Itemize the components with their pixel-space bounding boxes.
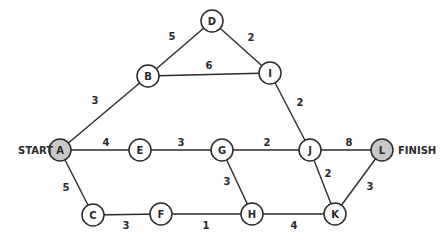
edge-b-i: [148, 73, 270, 76]
node-h: H: [241, 203, 263, 225]
node-label: D: [208, 16, 216, 27]
node-g: G: [211, 139, 233, 161]
edge-weight-i-j: 2: [297, 97, 304, 108]
edge-weight-k-l: 3: [367, 181, 374, 192]
edge-weight-a-c: 5: [63, 182, 70, 193]
edge-weights-layer: 3526243285313423: [63, 31, 374, 231]
edge-weight-a-b: 3: [92, 95, 99, 106]
node-i: I: [259, 62, 281, 84]
node-label: F: [158, 209, 165, 220]
edge-weight-d-i: 2: [248, 32, 255, 43]
node-label: J: [307, 145, 312, 156]
edge-weight-b-d: 5: [169, 31, 176, 42]
edge-weight-g-j: 2: [264, 137, 271, 148]
node-label: C: [89, 210, 96, 221]
edge-weight-j-k: 2: [325, 168, 332, 179]
node-j: J: [299, 139, 321, 161]
edge-i-j: [270, 73, 310, 150]
edges-layer: [60, 21, 382, 215]
node-label: I: [268, 68, 272, 79]
start-label: START: [18, 145, 53, 156]
node-e: E: [129, 139, 151, 161]
node-l: L: [371, 139, 393, 161]
nodes-layer: ABCDEFGHIJKL: [49, 10, 393, 226]
node-c: C: [82, 204, 104, 226]
edge-b-d: [148, 21, 212, 76]
node-label: L: [379, 145, 386, 156]
edge-weight-j-l: 8: [346, 137, 353, 148]
edge-k-l: [335, 150, 382, 214]
node-k: K: [324, 203, 346, 225]
edge-weight-c-f: 3: [123, 220, 130, 231]
node-label: A: [56, 145, 64, 156]
network-diagram: 3526243285313423 ABCDEFGHIJKL START FINI…: [0, 0, 442, 242]
edge-weight-g-h: 3: [224, 176, 231, 187]
node-label: E: [137, 145, 144, 156]
node-b: B: [137, 65, 159, 87]
node-label: B: [144, 71, 152, 82]
node-d: D: [201, 10, 223, 32]
finish-label: FINISH: [398, 145, 436, 156]
edge-weight-a-e: 4: [103, 137, 110, 148]
edge-weight-e-g: 3: [178, 137, 185, 148]
edge-weight-f-h: 1: [203, 220, 210, 231]
node-label: K: [331, 209, 340, 220]
edge-weight-h-k: 4: [291, 220, 298, 231]
edge-weight-b-i: 6: [206, 60, 213, 71]
node-f: F: [150, 203, 172, 225]
node-label: H: [248, 209, 256, 220]
node-label: G: [218, 145, 226, 156]
